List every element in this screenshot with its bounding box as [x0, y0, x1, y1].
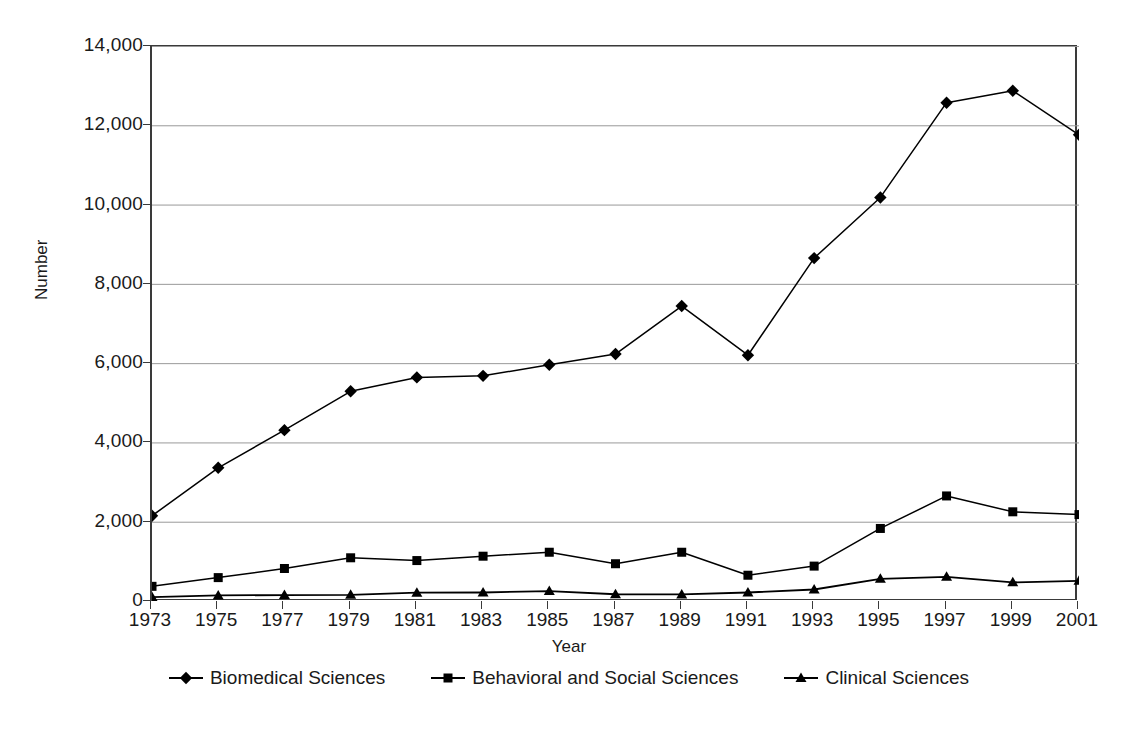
- y-axis-tick-label: 4,000: [63, 431, 143, 450]
- y-axis-title: Number: [32, 260, 52, 300]
- legend-item[interactable]: Clinical Sciences: [784, 668, 969, 688]
- data-point-marker: [810, 562, 819, 571]
- x-axis-tick-label: 1993: [775, 610, 849, 630]
- data-point-marker: [677, 548, 686, 557]
- legend-item-label: Biomedical Sciences: [210, 668, 385, 688]
- chart-legend: Biomedical SciencesBehavioral and Social…: [0, 668, 1138, 688]
- legend-item[interactable]: Behavioral and Social Sciences: [431, 668, 738, 688]
- x-axis-tick-mark: [481, 601, 482, 609]
- series-square: [152, 491, 1079, 590]
- x-axis-tick-mark: [282, 601, 283, 609]
- line-chart: Number 02,0004,0006,0008,00010,00012,000…: [0, 0, 1138, 730]
- diamond-marker-icon: [169, 670, 203, 686]
- x-axis-tick-label: 1985: [510, 610, 584, 630]
- x-axis-tick-label: 1975: [179, 610, 253, 630]
- legend-item[interactable]: Biomedical Sciences: [169, 668, 385, 688]
- y-axis-tick-label: 2,000: [63, 511, 143, 530]
- data-point-marker: [1075, 510, 1080, 519]
- x-axis-tick-mark: [150, 601, 151, 609]
- x-axis-tick-label: 1977: [245, 610, 319, 630]
- data-point-marker: [940, 96, 952, 108]
- x-axis-tick-label: 1981: [378, 610, 452, 630]
- x-axis-tick-mark: [349, 601, 350, 609]
- data-point-marker: [346, 553, 355, 562]
- series-diamond: [152, 85, 1079, 522]
- y-axis-tick-label: 6,000: [63, 352, 143, 371]
- x-axis-tick-label: 1983: [444, 610, 518, 630]
- data-point-marker: [876, 524, 885, 533]
- data-point-marker: [412, 556, 421, 565]
- x-axis-tick-label: 1999: [974, 610, 1048, 630]
- y-axis-tick-label: 12,000: [63, 114, 143, 133]
- data-point-marker: [942, 491, 951, 500]
- x-axis-tick-label: 1995: [841, 610, 915, 630]
- y-axis-tick-label: 10,000: [63, 194, 143, 213]
- x-axis-title: Year: [0, 637, 1138, 657]
- x-axis-tick-mark: [680, 601, 681, 609]
- data-point-marker: [1007, 85, 1019, 97]
- data-point-marker: [411, 371, 423, 383]
- triangle-marker-icon: [784, 670, 818, 686]
- data-point-marker: [676, 300, 688, 312]
- data-point-marker: [344, 385, 356, 397]
- x-axis-tick-label: 1997: [908, 610, 982, 630]
- square-marker-icon: [431, 670, 465, 686]
- data-point-marker: [1008, 507, 1017, 516]
- x-axis-tick-label: 1987: [577, 610, 651, 630]
- y-axis-tick-label: 14,000: [63, 35, 143, 54]
- data-point-marker: [212, 462, 224, 474]
- data-point-marker: [280, 564, 289, 573]
- data-point-marker: [214, 573, 223, 582]
- data-point-marker: [543, 359, 555, 371]
- data-point-marker: [545, 548, 554, 557]
- x-axis-tick-mark: [1077, 601, 1078, 609]
- x-axis-tick-mark: [878, 601, 879, 609]
- x-axis-tick-mark: [812, 601, 813, 609]
- series-line: [152, 91, 1079, 516]
- x-axis-tick-label: 1973: [113, 610, 187, 630]
- data-point-marker: [609, 348, 621, 360]
- x-axis-tick-label: 1979: [312, 610, 386, 630]
- series-layer: [152, 46, 1079, 601]
- y-axis-tick-label: 0: [63, 590, 143, 609]
- data-point-marker: [611, 559, 620, 568]
- series-line: [152, 496, 1079, 586]
- data-point-marker: [743, 571, 752, 580]
- data-point-marker: [278, 424, 290, 436]
- series-triangle: [152, 571, 1079, 601]
- legend-item-label: Clinical Sciences: [825, 668, 969, 688]
- plot-area: [150, 45, 1077, 600]
- data-point-marker: [152, 582, 157, 591]
- x-axis-tick-mark: [945, 601, 946, 609]
- x-axis-tick-label: 1989: [643, 610, 717, 630]
- data-point-marker: [742, 349, 754, 361]
- x-axis-tick-label: 1991: [709, 610, 783, 630]
- x-axis-tick-mark: [415, 601, 416, 609]
- x-axis-tick-mark: [1011, 601, 1012, 609]
- x-axis-tick-mark: [547, 601, 548, 609]
- x-axis-tick-mark: [216, 601, 217, 609]
- x-axis-tick-mark: [614, 601, 615, 609]
- data-point-marker: [479, 552, 488, 561]
- data-point-marker: [477, 370, 489, 382]
- y-axis-tick-label: 8,000: [63, 273, 143, 292]
- legend-item-label: Behavioral and Social Sciences: [472, 668, 738, 688]
- x-axis-tick-label: 2001: [1040, 610, 1114, 630]
- x-axis-tick-mark: [746, 601, 747, 609]
